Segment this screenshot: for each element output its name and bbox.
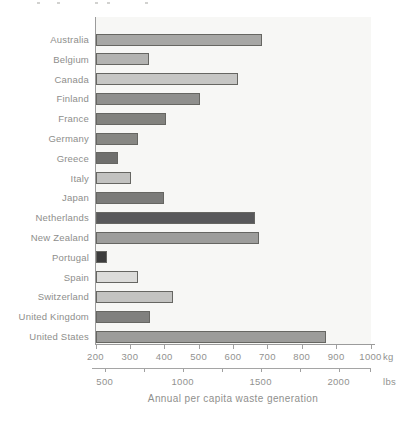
- bar-belgium: [96, 53, 149, 65]
- bar-canada: [96, 73, 238, 85]
- kg-tick-label: 400: [147, 352, 181, 362]
- bar-portugal: [96, 251, 107, 263]
- bar-switzerland: [96, 291, 173, 303]
- kg-tick-label: 800: [285, 352, 319, 362]
- kg-tick: [267, 345, 268, 349]
- kg-tick-label: 500: [182, 352, 216, 362]
- category-label: New Zealand: [0, 232, 89, 243]
- kg-tick: [336, 345, 337, 349]
- category-label: Greece: [0, 153, 89, 164]
- kg-tick: [302, 345, 303, 349]
- lbs-tick: [105, 369, 106, 372]
- kg-unit-label: kg: [383, 352, 394, 362]
- bar-netherlands: [96, 212, 255, 224]
- kg-tick: [199, 345, 200, 349]
- kg-tick: [164, 345, 165, 349]
- kg-tick: [96, 345, 97, 349]
- lbs-tick-label: 1000: [166, 377, 200, 387]
- kg-tick-label: 600: [216, 352, 250, 362]
- category-label: Japan: [0, 192, 89, 203]
- category-label: France: [0, 113, 89, 124]
- bar-italy: [96, 172, 131, 184]
- kg-tick: [371, 345, 372, 349]
- category-label: Netherlands: [0, 212, 89, 223]
- category-label: Portugal: [0, 252, 89, 263]
- waste-generation-bar-chart: AustraliaBelgiumCanadaFinlandFranceGerma…: [0, 0, 420, 421]
- lbs-tick-label: 500: [88, 377, 122, 387]
- kg-axis-line: [95, 344, 375, 345]
- bar-spain: [96, 271, 138, 283]
- category-label: Switzerland: [0, 291, 89, 302]
- bar-united-states: [96, 331, 326, 343]
- kg-tick-label: 200: [79, 352, 113, 362]
- lbs-tick: [261, 369, 262, 372]
- lbs-tick: [183, 369, 184, 372]
- bar-united-kingdom: [96, 311, 150, 323]
- kg-tick-label: 700: [250, 352, 284, 362]
- cropped-text-fragment: [37, 2, 40, 4]
- kg-tick: [233, 345, 234, 349]
- lbs-axis-line: [92, 368, 371, 369]
- cropped-text-fragment: [57, 2, 60, 4]
- kg-tick: [130, 345, 131, 349]
- cropped-text-fragment: [107, 2, 110, 4]
- lbs-tick: [339, 369, 340, 372]
- bar-germany: [96, 133, 138, 145]
- cropped-text-fragment: [95, 2, 98, 4]
- category-label: Spain: [0, 272, 89, 283]
- lbs-minor-tick: [222, 369, 223, 372]
- lbs-tick-label: 1500: [244, 377, 278, 387]
- bar-finland: [96, 93, 200, 105]
- bar-new-zealand: [96, 232, 259, 244]
- category-label: Australia: [0, 34, 89, 45]
- kg-tick-label: 900: [319, 352, 353, 362]
- kg-tick-label: 300: [113, 352, 147, 362]
- category-label: Belgium: [0, 54, 89, 65]
- lbs-minor-tick: [144, 369, 145, 372]
- category-label: United States: [0, 331, 89, 342]
- lbs-minor-tick: [370, 369, 371, 372]
- bar-greece: [96, 152, 118, 164]
- category-label: Italy: [0, 173, 89, 184]
- category-label: Canada: [0, 74, 89, 85]
- category-label: Finland: [0, 93, 89, 104]
- chart-title: Annual per capita waste generation: [95, 393, 371, 405]
- cropped-text-fragment: [145, 2, 148, 4]
- lbs-minor-tick: [300, 369, 301, 372]
- category-label: United Kingdom: [0, 311, 89, 322]
- lbs-tick-label: 2000: [322, 377, 356, 387]
- category-label: Germany: [0, 133, 89, 144]
- bar-australia: [96, 34, 262, 46]
- bar-japan: [96, 192, 164, 204]
- bar-france: [96, 113, 166, 125]
- lbs-unit-label: lbs: [383, 377, 396, 387]
